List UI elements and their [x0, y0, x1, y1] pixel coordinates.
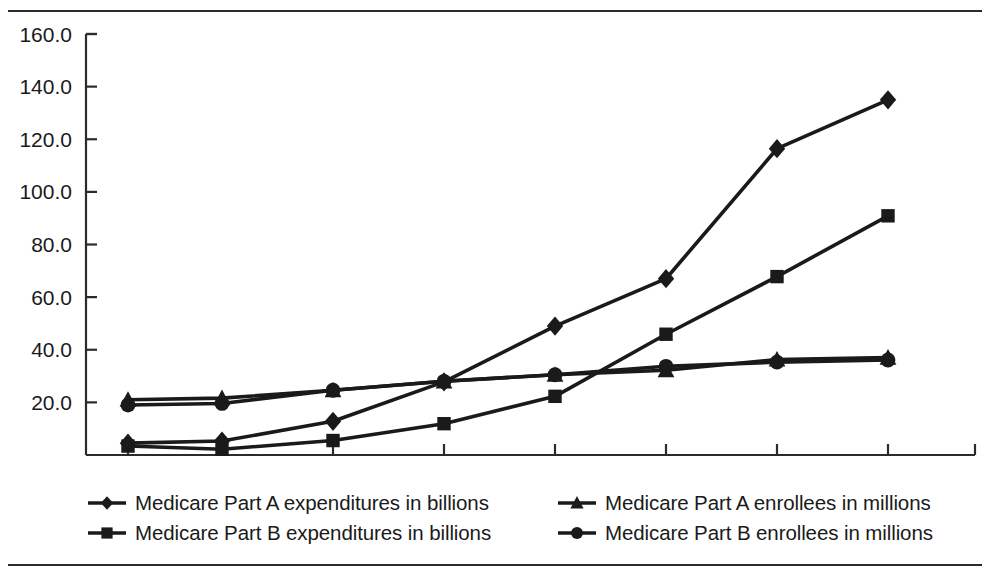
- square-data-point-marker: [548, 390, 561, 403]
- circle-data-point-marker: [881, 353, 896, 368]
- x-axis-tick-label: 1995: [754, 465, 801, 468]
- legend-column-left: Medicare Part A expenditures in billions…: [88, 488, 518, 548]
- x-axis-tick-labels: 19671970197519801985199019951998: [105, 465, 912, 468]
- circle-data-point-marker: [437, 374, 452, 389]
- y-axis-tick-label: 60.0: [31, 286, 72, 309]
- y-axis-tick-label: 20.0: [31, 391, 72, 414]
- square-data-point-marker: [121, 439, 134, 452]
- square-data-point-marker: [437, 417, 450, 430]
- diamond-marker-icon: [88, 494, 126, 512]
- bottom-divider-rule: [8, 564, 982, 566]
- triangle-marker-icon: [558, 494, 596, 512]
- square-data-point-marker: [326, 434, 339, 447]
- circle-data-point-marker: [215, 396, 230, 411]
- y-axis-ticks: [86, 34, 97, 402]
- y-axis-tick-label: 120.0: [19, 128, 72, 151]
- square-data-point-marker: [659, 328, 672, 341]
- chart-legend: Medicare Part A expenditures in billions…: [0, 488, 990, 558]
- x-axis-tick-label: 1970: [199, 465, 246, 468]
- y-axis-tick-label: 140.0: [19, 75, 72, 98]
- legend-item-part-b-expenditures: Medicare Part B expenditures in billions: [88, 518, 518, 548]
- legend-label: Medicare Part B enrollees in millions: [605, 521, 933, 545]
- legend-item-part-b-enrollees: Medicare Part B enrollees in millions: [558, 518, 988, 548]
- diamond-data-point-marker: [325, 412, 341, 431]
- line-chart-svg: 20.040.060.080.0100.0120.0140.0160.0 196…: [0, 18, 990, 468]
- y-axis-tick-labels: 20.040.060.080.0100.0120.0140.0160.0: [19, 23, 72, 414]
- y-axis-tick-label: 160.0: [19, 23, 72, 46]
- x-axis-tick-label: 1975: [310, 465, 357, 468]
- square-data-point-marker: [770, 270, 783, 283]
- y-axis-tick-label: 40.0: [31, 338, 72, 361]
- square-data-point-marker: [215, 443, 228, 456]
- circle-data-point-marker: [121, 398, 136, 413]
- chart-figure: 20.040.060.080.0100.0120.0140.0160.0 196…: [0, 0, 990, 574]
- legend-label: Medicare Part A expenditures in billions: [135, 491, 489, 515]
- legend-item-part-a-enrollees: Medicare Part A enrollees in millions: [558, 488, 988, 518]
- top-divider-rule: [8, 10, 982, 12]
- square-marker-icon: [88, 524, 126, 542]
- diamond-data-point-marker: [880, 90, 896, 109]
- x-axis-tick-label: 1990: [643, 465, 690, 468]
- legend-label: Medicare Part B expenditures in billions: [135, 521, 491, 545]
- legend-column-right: Medicare Part A enrollees in millions Me…: [558, 488, 988, 548]
- legend-label: Medicare Part A enrollees in millions: [605, 491, 931, 515]
- circle-marker-icon: [558, 524, 596, 542]
- x-axis-tick-label: 1967: [105, 465, 152, 468]
- circle-data-point-marker: [548, 367, 563, 382]
- circle-data-point-marker: [770, 355, 785, 370]
- x-axis-ticks: [128, 444, 888, 455]
- x-axis-tick-label: 1998: [865, 465, 912, 468]
- diamond-data-point-marker: [547, 316, 563, 335]
- circle-data-point-marker: [659, 359, 674, 374]
- x-axis-tick-label: 1985: [532, 465, 579, 468]
- series-line: [128, 216, 888, 449]
- circle-data-point-marker: [326, 383, 341, 398]
- legend-item-part-a-expenditures: Medicare Part A expenditures in billions: [88, 488, 518, 518]
- y-axis-tick-label: 100.0: [19, 180, 72, 203]
- square-data-point-marker: [881, 209, 894, 222]
- x-axis-tick-label: 1980: [421, 465, 468, 468]
- y-axis-tick-label: 80.0: [31, 233, 72, 256]
- plot-area: 20.040.060.080.0100.0120.0140.0160.0 196…: [0, 18, 990, 468]
